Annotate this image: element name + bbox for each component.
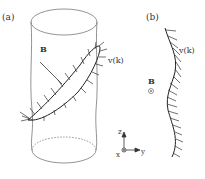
wavy-chain (165, 28, 176, 157)
panel-label-b: (b) (146, 12, 159, 22)
out-of-page-icon (149, 89, 154, 94)
axis-label-x: x (116, 151, 120, 159)
vector-label-b: v(k) (178, 46, 195, 55)
field-label-a: B (40, 44, 47, 54)
figure-canvas: (a) B v(k) (b) v(k) B (0, 0, 205, 179)
axis-label-y: y (140, 148, 145, 156)
axis-label-z: z (118, 128, 122, 136)
axes-icon (122, 132, 140, 152)
field-line-a (40, 62, 62, 84)
velocity-vectors-a (20, 42, 107, 121)
field-label-b: B (148, 76, 155, 86)
vector-label-a: v(k) (107, 56, 124, 65)
orbit-ellipse (28, 46, 100, 120)
cylinder (31, 9, 97, 163)
panel-label-a: (a) (2, 12, 14, 22)
